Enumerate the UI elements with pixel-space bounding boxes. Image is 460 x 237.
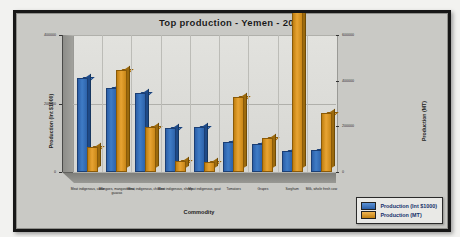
bar-blue[interactable] [311,152,320,172]
gridline [307,35,308,172]
bar-front-face [233,97,244,172]
gridline [219,35,220,172]
bar-blue[interactable] [194,129,203,172]
gridline [131,35,132,172]
bar-blue[interactable] [223,144,232,172]
bar-blue[interactable] [135,95,144,172]
bar-group [278,35,307,172]
bar-orange[interactable] [204,164,213,172]
bar-orange[interactable] [292,12,301,172]
y-axis-right-tick-label: 200000 [342,124,354,128]
bar-blue[interactable] [165,130,174,172]
gridline [102,35,103,172]
gridline [190,35,191,172]
bar-front-face [292,10,303,172]
legend-swatch-production-mt [361,211,376,219]
chart-frame: Top production - Yemen - 2012 Production… [13,10,451,232]
bar-orange[interactable] [175,163,184,172]
plot-floor [62,172,336,184]
legend-swatch-production-int [361,202,376,210]
y-axis-right-tick-label: 600000 [342,33,354,37]
gridline [248,35,249,172]
bar-orange[interactable] [87,149,96,172]
tick-mark [336,35,339,36]
bar-group [190,35,219,172]
y-axis-right-tick-label: 400000 [342,79,354,83]
tick-mark [336,172,339,173]
x-axis-title: Commodity [62,209,336,215]
y-axis-left-tick-label: 200000 [44,102,56,106]
x-axis-tick-label: Milk, whole fresh cow [301,187,341,191]
y-axis-right-title: Production (MT) [421,101,427,141]
chart-title: Top production - Yemen - 2012 [16,17,448,28]
bar-front-face [145,127,156,172]
y-axis-left-tick-label: 0 [54,170,56,174]
bar-front-face [116,70,127,172]
bar-group [131,35,160,172]
bar-group [102,35,131,172]
bar-front-face [175,161,186,172]
bar-orange[interactable] [145,129,154,172]
bar-blue[interactable] [282,153,291,172]
bar-front-face [262,138,273,172]
y-axis-left-tick-label: 400000 [44,33,56,37]
bar-blue[interactable] [106,90,115,172]
plot-area: 0200000400000 0200000400000600000 Meat i… [62,35,336,183]
bar-blue[interactable] [252,146,261,172]
bar-group [161,35,190,172]
gridline [161,35,162,172]
bar-series-group [73,35,336,172]
bar-blue[interactable] [77,80,86,172]
bar-front-face [87,147,98,172]
tick-mark [59,35,62,36]
bar-orange[interactable] [233,99,242,172]
tick-mark [336,126,339,127]
bar-orange[interactable] [321,115,330,172]
legend-item[interactable]: Production (MT) [361,211,437,219]
bar-group [219,35,248,172]
tick-mark [59,172,62,173]
y-axis-right-tick-label: 0 [342,170,344,174]
tick-mark [59,104,62,105]
gridline [73,172,336,173]
legend-item[interactable]: Production (Int $1000) [361,202,437,210]
legend-label-production-mt: Production (MT) [380,212,421,218]
bar-group [307,35,336,172]
bar-front-face [321,113,332,172]
bar-group [248,35,277,172]
bar-group [73,35,102,172]
chart-legend[interactable]: Production (Int $1000) Production (MT) [356,197,443,224]
bar-orange[interactable] [262,140,271,172]
tick-mark [336,81,339,82]
legend-label-production-int: Production (Int $1000) [380,203,437,209]
gridline [278,35,279,172]
bar-front-face [204,162,215,172]
bar-orange[interactable] [116,72,125,172]
screenshot-root: Top production - Yemen - 2012 Production… [0,0,460,237]
